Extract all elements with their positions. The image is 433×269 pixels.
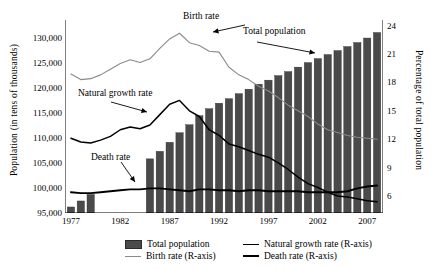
y-tick-label-right: 21 xyxy=(387,49,396,59)
y-tick-label-left: 115,000 xyxy=(33,108,62,118)
bar xyxy=(344,47,351,213)
legend-item-birth-rate: Birth rate (R-axis) xyxy=(125,250,243,262)
line-swatch-icon xyxy=(243,255,259,257)
y-tick-label-left: 100,000 xyxy=(33,183,62,193)
y-tick-label-left: 120,000 xyxy=(33,83,62,93)
annotation-birth-rate: Birth rate xyxy=(183,11,219,21)
y-tick-label-right: 18 xyxy=(387,77,396,87)
bar xyxy=(87,194,94,213)
bar xyxy=(225,99,232,213)
arrow-total-population xyxy=(257,42,315,53)
bar xyxy=(265,80,272,213)
bar-swatch-icon xyxy=(125,240,142,249)
y-tick-label-right: 24 xyxy=(387,21,396,31)
y-tick-label-right: 15 xyxy=(387,106,396,116)
y-tick-label-right: 6 xyxy=(387,191,392,201)
bar xyxy=(196,116,203,213)
annotation-natural-growth-rate: Natural growth rate xyxy=(78,88,152,98)
line-swatch-icon xyxy=(243,244,259,245)
bar xyxy=(67,207,74,213)
bar xyxy=(255,84,262,213)
bar xyxy=(235,94,242,213)
plot-area xyxy=(65,20,383,213)
bar xyxy=(77,201,84,213)
arrow-natural-growth-rate xyxy=(111,102,147,112)
legend-label: Natural growth rate (R-axis) xyxy=(264,238,372,250)
y-tick-label-left: 125,000 xyxy=(33,58,62,68)
bar xyxy=(206,109,213,213)
chart-legend: Total population Natural growth rate (R-… xyxy=(125,238,425,262)
bar xyxy=(304,63,311,213)
bar xyxy=(146,159,153,213)
legend-item-death-rate: Death rate (R-axis) xyxy=(243,250,337,262)
y-tick-label-left: 105,000 xyxy=(33,158,62,168)
legend-label: Death rate (R-axis) xyxy=(264,250,337,262)
bar xyxy=(166,142,173,213)
legend-item-total-population: Total population xyxy=(125,238,243,250)
legend-row: Birth rate (R-axis) Death rate (R-axis) xyxy=(125,250,425,262)
x-tick-label: 1977 xyxy=(62,216,80,226)
chart-canvas xyxy=(65,20,383,213)
x-tick-label: 1982 xyxy=(111,216,129,226)
y-tick-label-right: 12 xyxy=(387,134,396,144)
legend-row: Total population Natural growth rate (R-… xyxy=(125,238,425,250)
x-tick-label: 1992 xyxy=(210,216,228,226)
bar xyxy=(314,59,321,213)
population-rates-chart: Population (in tens of thousands) Percen… xyxy=(0,0,433,269)
bar xyxy=(156,151,163,213)
y-tick-label-right: 9 xyxy=(387,163,392,173)
bar xyxy=(324,55,331,213)
legend-item-natural-growth-rate: Natural growth rate (R-axis) xyxy=(243,238,372,250)
x-tick-label: 1987 xyxy=(161,216,179,226)
legend-label: Total population xyxy=(147,238,209,250)
x-tick-label: 2002 xyxy=(309,216,327,226)
bar xyxy=(215,103,222,213)
line-swatch-icon xyxy=(125,256,141,257)
y-tick-label-left: 130,000 xyxy=(33,33,62,43)
x-tick-label: 2007 xyxy=(358,216,376,226)
annotation-total-population: Total population xyxy=(243,26,305,36)
annotation-death-rate: Death rate xyxy=(91,152,130,162)
legend-label: Birth rate (R-axis) xyxy=(146,250,216,262)
bar xyxy=(176,133,183,213)
bar xyxy=(186,125,193,213)
x-axis-ticks: 1977198219871992199720022007 xyxy=(0,216,433,232)
x-tick-label: 1997 xyxy=(259,216,277,226)
y-tick-label-left: 110,000 xyxy=(33,133,62,143)
